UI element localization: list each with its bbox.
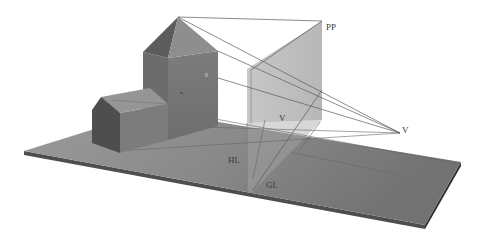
- tower-front-face: [168, 51, 218, 140]
- label-vanishing-point-right: V: [402, 125, 409, 135]
- sight-line-roof-pp: [178, 17, 322, 21]
- picture-plane-upper: [247, 21, 322, 123]
- tower-door: [180, 92, 183, 94]
- tower-window: [205, 73, 208, 77]
- perspective-diagram: PP V V HL GL: [0, 0, 482, 246]
- ground-plane: [24, 111, 461, 229]
- label-horizon-line: HL: [228, 155, 240, 165]
- label-ground-line: GL: [266, 180, 278, 190]
- label-picture-plane: PP: [326, 22, 336, 32]
- label-vanishing-point-left: V: [279, 113, 286, 123]
